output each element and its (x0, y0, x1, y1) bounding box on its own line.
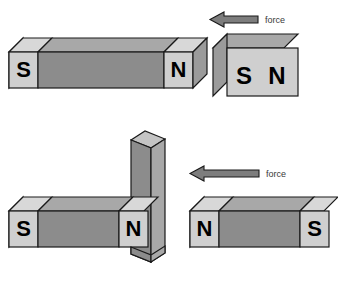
bottom-left-magnet-front-body (38, 211, 119, 247)
top-end-on-magnet-side-face (213, 34, 227, 96)
bottom-left-magnet-label-n: N (126, 216, 142, 241)
top-long-magnet-label-s: S (16, 57, 31, 82)
top-end-on-magnet-label-n: N (268, 62, 285, 89)
bottom-left-magnet-top-body (38, 197, 133, 211)
top-force-arrow-group: force (210, 12, 285, 27)
bottom-right-magnet-label-n: N (197, 216, 213, 241)
bottom-right-magnet-top-body (219, 197, 314, 211)
top-end-on-magnet-label-s: S (236, 62, 252, 89)
bottom-force-arrow-icon (190, 166, 259, 181)
bottom-right-long-magnet: N S (190, 197, 338, 247)
bottom-force-arrow-group: force (190, 166, 286, 181)
bottom-force-label: force (266, 169, 286, 179)
magnet-diagram: S N S N force (0, 0, 338, 282)
bottom-right-magnet-front-body (219, 211, 300, 247)
top-long-magnet-front-body (38, 52, 164, 88)
bottom-left-long-magnet: S N (9, 197, 158, 247)
top-force-label: force (265, 15, 285, 25)
top-force-arrow-icon (210, 12, 258, 27)
diagram-canvas: S N S N force (0, 0, 338, 282)
top-long-magnet-top-body (38, 38, 178, 52)
bottom-right-magnet-label-s: S (307, 216, 322, 241)
top-end-on-magnet: S N (213, 34, 298, 96)
top-long-magnet: S N (9, 38, 207, 88)
top-long-magnet-label-n: N (171, 57, 187, 82)
bottom-left-magnet-label-s: S (16, 216, 31, 241)
